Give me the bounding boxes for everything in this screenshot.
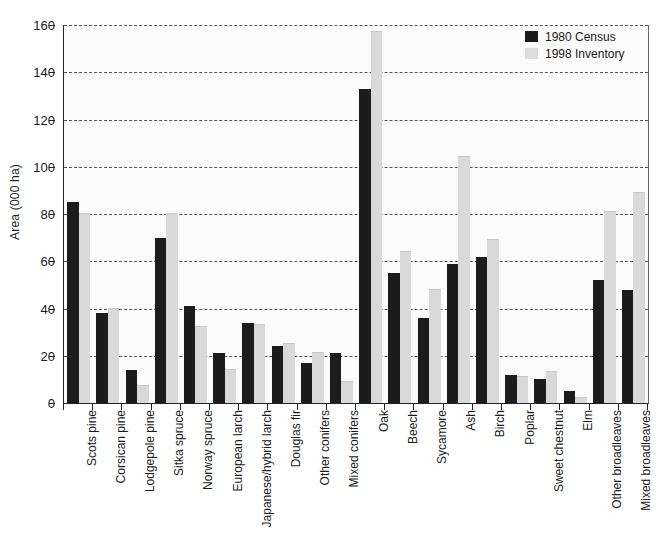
y-axis-tick-label: 40 <box>7 301 55 316</box>
x-axis-tick-label: Beech <box>405 410 421 444</box>
bar-census <box>213 353 225 403</box>
legend-swatch-icon <box>525 31 538 42</box>
bar-census <box>593 280 605 403</box>
x-axis-tick <box>180 403 181 410</box>
x-axis-tick-label: Lodgepole pine <box>142 410 158 492</box>
x-axis-tick <box>209 403 210 410</box>
bar-group <box>301 25 324 403</box>
x-axis-labels: Scots pineCorsican pineLodgepole pineSit… <box>63 410 647 543</box>
y-axis-tick-label: 20 <box>7 348 55 363</box>
bar-group <box>505 25 528 403</box>
bar-inventory <box>312 352 324 403</box>
x-axis-tick <box>443 403 444 410</box>
bar-inventory <box>371 31 383 403</box>
bar-group <box>126 25 149 403</box>
x-axis-tick-label: Sitka spruce <box>171 410 187 476</box>
bar-group <box>184 25 207 403</box>
x-axis-tick-label: European larch <box>230 410 246 491</box>
x-axis-tick-label: Oak <box>376 410 392 432</box>
x-axis-tick <box>647 403 648 410</box>
bar-census <box>388 273 400 403</box>
legend-item: 1998 Inventory <box>525 45 639 62</box>
x-axis-tick-label: Douglas fir <box>288 410 304 467</box>
bar-census <box>476 257 488 403</box>
bar-census <box>447 264 459 403</box>
x-axis-tick <box>267 403 268 410</box>
legend-swatch-icon <box>525 48 538 59</box>
bar-group <box>476 25 499 403</box>
x-axis-tick <box>472 403 473 410</box>
y-axis-tick-label: 100 <box>7 159 55 174</box>
x-axis-tick <box>559 403 560 410</box>
bar-group <box>242 25 265 403</box>
x-axis-tick-label: Other broadleaves <box>609 410 625 509</box>
bar-inventory <box>400 251 412 403</box>
bar-census <box>67 202 79 403</box>
bars-layer <box>64 25 648 403</box>
bar-census <box>505 375 517 403</box>
y-axis-tick-label: 60 <box>7 254 55 269</box>
bar-census <box>272 346 284 403</box>
bar-inventory <box>604 211 616 403</box>
bar-inventory <box>429 289 441 403</box>
x-axis-tick <box>413 403 414 410</box>
y-axis-tick-label: 120 <box>7 112 55 127</box>
y-axis-tick <box>49 167 55 168</box>
bar-group <box>67 25 90 403</box>
chart-legend: 1980 Census1998 Inventory <box>519 24 645 67</box>
bar-inventory <box>633 192 645 403</box>
bar-inventory <box>546 371 558 403</box>
y-axis-tick-label: 160 <box>7 18 55 33</box>
bar-inventory <box>195 326 207 403</box>
y-axis-tick-label: 80 <box>7 207 55 222</box>
bar-group <box>155 25 178 403</box>
x-axis-tick <box>384 403 385 410</box>
x-axis-tick <box>326 403 327 410</box>
bar-group <box>213 25 236 403</box>
legend-item: 1980 Census <box>525 28 639 45</box>
bar-census <box>330 353 342 403</box>
x-axis-tick <box>63 403 64 410</box>
x-axis-tick-label: Sweet chestnut <box>551 410 567 492</box>
bar-inventory <box>166 213 178 403</box>
bar-inventory <box>517 376 529 403</box>
x-axis-tick <box>618 403 619 410</box>
y-axis-tick <box>49 214 55 215</box>
x-axis-tick-label: Sycamore <box>434 410 450 464</box>
bar-inventory <box>79 213 91 403</box>
bar-group <box>534 25 557 403</box>
bar-census <box>184 306 196 403</box>
x-axis-tick <box>501 403 502 410</box>
x-axis-tick-label: Elm <box>580 410 596 431</box>
y-axis-tick <box>49 261 55 262</box>
y-axis-tick <box>49 25 55 26</box>
x-axis-tick <box>355 403 356 410</box>
x-axis-tick <box>121 403 122 410</box>
bar-inventory <box>108 308 120 404</box>
x-axis-tick-label: Poplar <box>522 410 538 445</box>
bar-inventory <box>575 397 587 403</box>
x-axis-tick-label: Japanese/hybrid larch <box>259 410 275 527</box>
bar-inventory <box>487 239 499 403</box>
bar-group <box>447 25 470 403</box>
bar-inventory <box>137 385 149 403</box>
bar-census <box>564 391 576 403</box>
bar-group <box>272 25 295 403</box>
bar-census <box>359 89 371 403</box>
bar-census <box>126 370 138 403</box>
x-axis-tick <box>238 403 239 410</box>
bar-group <box>359 25 382 403</box>
bar-census <box>534 379 546 403</box>
legend-label: 1998 Inventory <box>545 47 624 61</box>
bar-group <box>418 25 441 403</box>
x-axis-tick-label: Mixed conifers <box>346 410 362 487</box>
bar-group <box>564 25 587 403</box>
y-axis-labels: 020406080100120140160 <box>0 25 55 403</box>
plot-area <box>63 25 649 404</box>
bar-inventory <box>283 343 295 403</box>
bar-census <box>301 363 313 403</box>
y-axis-tick <box>49 72 55 73</box>
y-axis-tick-label: 140 <box>7 65 55 80</box>
x-axis-tick-label: Scots pine <box>84 410 100 466</box>
x-axis-tick-label: Birch <box>492 410 508 437</box>
